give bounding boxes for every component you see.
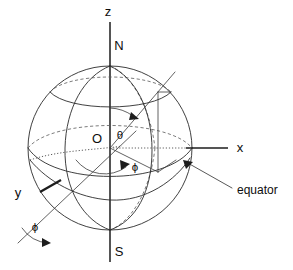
equator-label: equator	[237, 183, 278, 197]
sphere-diagram: z N S O θ ϕ ϕ x y equator	[0, 0, 293, 270]
north-pole-label: N	[114, 38, 123, 53]
projection-foot-connector	[158, 160, 176, 172]
theta-arc	[110, 108, 133, 116]
phi-equatorial-label: ϕ	[132, 161, 138, 173]
equator-leader-arrowhead	[183, 160, 193, 169]
theta-label: θ	[117, 129, 123, 141]
origin-label: O	[92, 131, 102, 146]
meridian-front-solid	[65, 66, 110, 230]
phi-arc	[76, 160, 126, 174]
south-pole-label: S	[115, 244, 124, 259]
z-axis-label: z	[105, 4, 112, 19]
figure-root: z N S O θ ϕ ϕ x y equator	[0, 0, 293, 270]
equator-leader-line	[186, 162, 232, 188]
phi-lower-label: ϕ	[32, 221, 38, 233]
x-axis-label: x	[237, 140, 244, 155]
y-axis-label: y	[15, 185, 22, 200]
phi-arrowhead	[120, 160, 130, 170]
phi-lower-arrowhead	[42, 238, 51, 247]
y-circle-tickmark	[40, 180, 61, 192]
